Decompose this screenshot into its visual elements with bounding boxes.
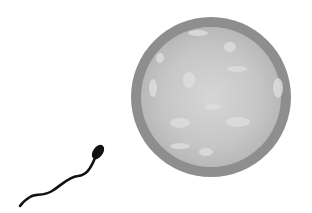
- sperm-tail: [20, 158, 95, 206]
- illustration: [0, 0, 312, 213]
- sperm-head: [89, 143, 106, 162]
- sperm-cell: [20, 143, 107, 206]
- egg-cytoplasm: [141, 27, 281, 167]
- egg-cell: [131, 17, 291, 177]
